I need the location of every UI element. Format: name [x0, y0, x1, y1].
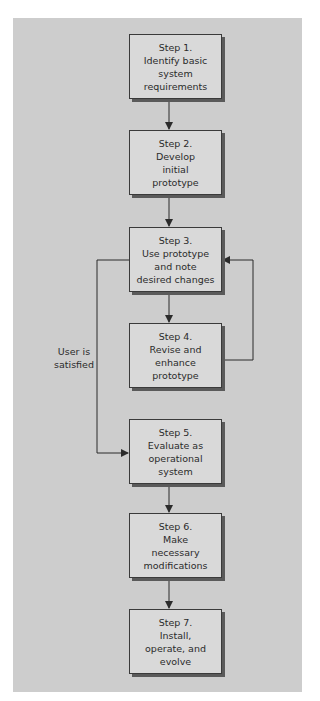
step-text: requirements	[144, 80, 208, 93]
step-1-box: Step 1. Identify basic system requiremen…	[129, 34, 222, 99]
step-2-box: Step 2. Develop initial prototype	[129, 130, 222, 195]
label-line: User is	[50, 345, 98, 358]
step-text: Install,	[160, 629, 192, 642]
step-3-box: Step 3. Use prototype and note desired c…	[129, 227, 222, 292]
step-title: Step 6.	[159, 520, 193, 533]
step-text: evolve	[160, 655, 191, 668]
step-title: Step 2.	[159, 137, 193, 150]
step-text: Evaluate as	[148, 439, 203, 452]
step-text: Develop	[156, 150, 195, 163]
step-title: Step 7.	[159, 616, 193, 629]
step-title: Step 3.	[159, 234, 193, 247]
step-5-box: Step 5. Evaluate as operational system	[129, 419, 222, 484]
step-title: Step 1.	[159, 41, 193, 54]
step-text: enhance	[155, 356, 196, 369]
arrow-step4-loop-step3	[222, 260, 253, 360]
step-4-box: Step 4. Revise and enhance prototype	[129, 323, 222, 388]
step-text: operate, and	[145, 642, 206, 655]
step-title: Step 4.	[159, 330, 193, 343]
step-text: initial	[162, 163, 188, 176]
step-text: operational	[148, 452, 202, 465]
user-satisfied-label: User is satisfied	[50, 345, 98, 371]
step-title: Step 5.	[159, 426, 193, 439]
step-text: Identify basic	[144, 54, 208, 67]
step-text: Use prototype	[142, 247, 209, 260]
step-text: prototype	[152, 176, 198, 189]
step-text: and note	[154, 260, 196, 273]
step-text: necessary	[151, 546, 199, 559]
step-text: modifications	[144, 559, 208, 572]
step-text: system	[158, 67, 192, 80]
step-text: desired changes	[137, 273, 215, 286]
step-text: prototype	[152, 369, 198, 382]
arrow-step3-step5	[97, 260, 129, 453]
label-line: satisfied	[50, 358, 98, 371]
step-text: system	[158, 465, 192, 478]
step-6-box: Step 6. Make necessary modifications	[129, 513, 222, 578]
step-text: Make	[163, 533, 188, 546]
step-7-box: Step 7. Install, operate, and evolve	[129, 609, 222, 674]
step-text: Revise and	[150, 343, 202, 356]
